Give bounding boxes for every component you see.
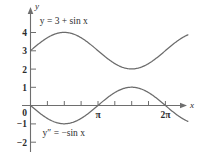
upper-curve-label: y = 3 + sin x	[40, 16, 88, 26]
x-axis-label: x	[189, 100, 194, 110]
y-tick-label-4: 4	[22, 28, 27, 38]
x-tick-marks	[47, 101, 165, 106]
x-tick-labels: π 2π	[95, 110, 171, 120]
graph-figure: y x 4	[0, 0, 202, 157]
y-tick-label-1: 1	[22, 83, 27, 93]
y-tick-label-2: 2	[22, 65, 27, 75]
y-axis-arrowhead	[28, 7, 34, 14]
y-tick-label-neg2: −2	[17, 138, 27, 148]
y-axis-group: y	[28, 1, 39, 152]
y-tick-label-neg1: −1	[17, 119, 27, 129]
plot-svg: y x 4	[0, 0, 202, 157]
y-tick-labels: 4 3 2 1 0 −1 −2	[17, 28, 27, 148]
x-tick-label-2pi: 2π	[160, 110, 171, 120]
x-tick-label-pi: π	[95, 110, 101, 120]
lower-curve-label: y″ = −sin x	[43, 128, 86, 138]
curve-y-equals-3-plus-sinx	[31, 32, 188, 69]
y-tick-label-3: 3	[22, 46, 27, 56]
y-axis-label: y	[34, 1, 39, 11]
x-axis-arrowhead	[180, 103, 187, 109]
y-tick-label-0: 0	[22, 108, 27, 118]
